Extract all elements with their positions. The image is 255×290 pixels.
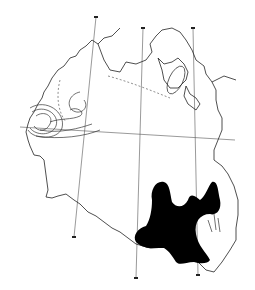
coastline (26, 28, 238, 272)
parallel-1 (20, 127, 235, 140)
tick-mark (94, 16, 98, 18)
meridian-1 (74, 17, 96, 237)
tick-mark (72, 236, 76, 238)
tick-mark (191, 27, 195, 29)
tick-mark (196, 274, 200, 276)
graticule (20, 16, 235, 279)
shaded-region (135, 182, 221, 264)
tick-mark (141, 27, 145, 29)
map-figure (0, 0, 255, 290)
tick-mark (134, 277, 138, 279)
